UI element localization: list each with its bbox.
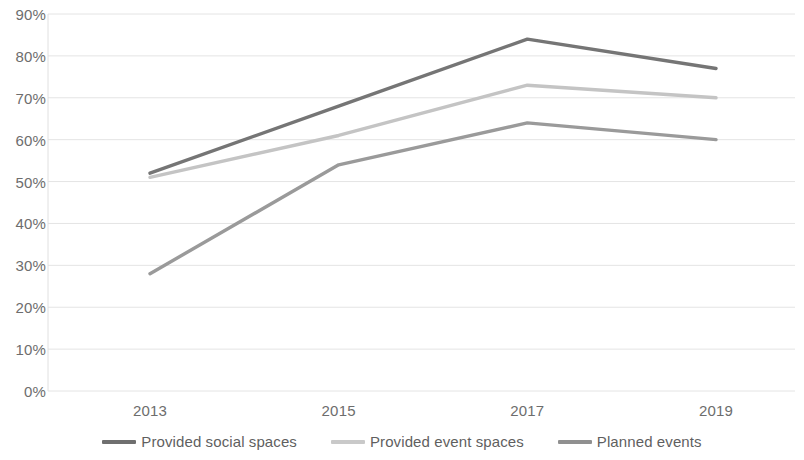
y-tick-label: 60%	[0, 131, 46, 148]
y-tick-label: 80%	[0, 47, 46, 64]
x-tick-label: 2019	[699, 402, 733, 419]
y-tick-label: 0%	[0, 383, 46, 400]
legend-label: Provided event spaces	[370, 433, 524, 450]
x-tick-label: 2015	[322, 402, 356, 419]
y-tick-label: 30%	[0, 257, 46, 274]
chart-legend: Provided social spacesProvided event spa…	[0, 433, 804, 450]
legend-item[interactable]: Provided social spaces	[102, 433, 297, 450]
series-line-0	[150, 39, 716, 173]
legend-line-icon	[331, 440, 365, 444]
x-tick-label: 2017	[510, 402, 544, 419]
y-tick-label: 90%	[0, 6, 46, 23]
legend-label: Planned events	[597, 433, 702, 450]
legend-item[interactable]: Planned events	[558, 433, 702, 450]
y-tick-label: 50%	[0, 173, 46, 190]
legend-line-icon	[102, 440, 136, 444]
y-tick-label: 10%	[0, 341, 46, 358]
line-chart: 0%10%20%30%40%50%60%70%80%90% 2013201520…	[0, 0, 804, 460]
gridlines	[48, 14, 795, 391]
y-axis-labels: 0%10%20%30%40%50%60%70%80%90%	[0, 0, 46, 460]
series-line-2	[150, 123, 716, 274]
chart-plot-area	[0, 0, 804, 460]
y-tick-label: 70%	[0, 89, 46, 106]
series-lines	[150, 39, 716, 274]
legend-line-icon	[558, 440, 592, 444]
legend-label: Provided social spaces	[141, 433, 297, 450]
x-tick-label: 2013	[133, 402, 167, 419]
y-tick-label: 40%	[0, 215, 46, 232]
y-tick-label: 20%	[0, 299, 46, 316]
legend-item[interactable]: Provided event spaces	[331, 433, 524, 450]
